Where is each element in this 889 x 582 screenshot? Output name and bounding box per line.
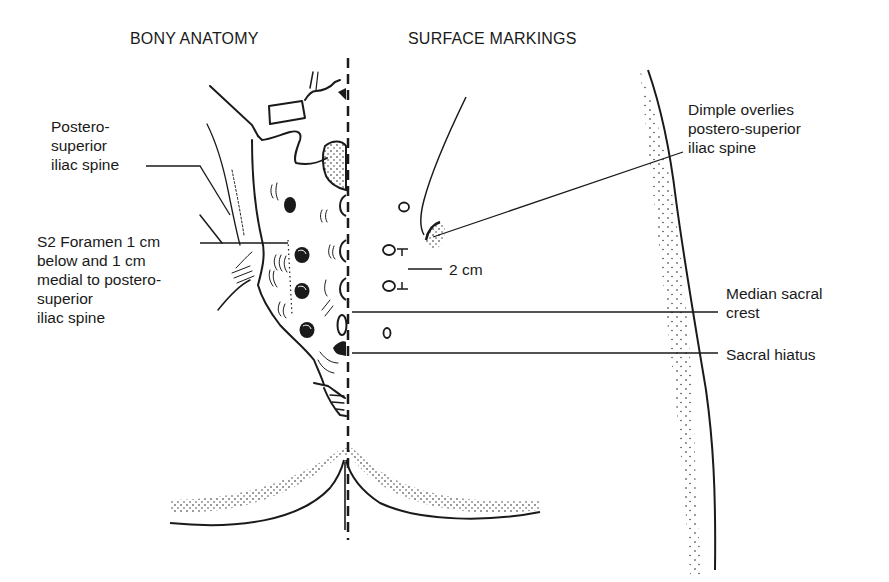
sacrum-outline — [252, 72, 346, 416]
marker-s4 — [384, 328, 391, 338]
sacrum-hatching — [232, 183, 338, 373]
foramen-s3 — [295, 283, 310, 299]
foramen-s4 — [300, 322, 315, 338]
marker-s2 — [383, 245, 395, 255]
marker-s1 — [399, 203, 409, 212]
sacrum-notch — [338, 88, 346, 100]
foramen-s2 — [295, 247, 310, 263]
marker-s3 — [383, 281, 395, 291]
ilium-outline — [200, 86, 258, 310]
surface-back-curve — [421, 97, 466, 235]
dimple-leader — [433, 152, 683, 237]
sacral-hiatus-bony — [333, 341, 346, 356]
sacral-foramina — [284, 197, 315, 338]
foramen-s1 — [284, 197, 296, 213]
leader-lines-right — [352, 312, 718, 353]
flank-stipple — [640, 70, 702, 575]
anatomy-illustration — [0, 0, 889, 582]
psis-s2-dotted — [288, 240, 292, 315]
two-cm-measure — [397, 249, 442, 289]
median-sacral-crest-bony — [338, 195, 347, 335]
leader-lines-left — [146, 166, 288, 243]
sacral-ala-stippled — [323, 142, 346, 191]
surface-foramina-markers — [383, 203, 409, 339]
